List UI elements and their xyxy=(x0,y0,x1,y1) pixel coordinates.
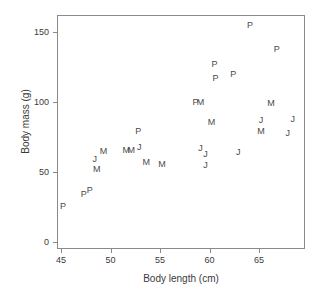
data-point-P: P xyxy=(230,70,236,79)
y-axis-tick xyxy=(53,242,57,243)
plot-area: PPPPPPPPPPMMMMMMMMMMJJJJJJJJJ xyxy=(57,15,305,249)
data-point-J: J xyxy=(203,161,208,170)
data-point-J: J xyxy=(259,116,264,125)
y-axis-tick xyxy=(53,172,57,173)
y-axis-tick-label: 100 xyxy=(34,97,49,107)
data-point-M: M xyxy=(100,147,108,156)
data-point-P: P xyxy=(212,74,218,83)
data-point-P: P xyxy=(135,127,141,136)
data-point-J: J xyxy=(236,148,241,157)
data-point-J: J xyxy=(137,142,142,151)
x-axis-tick xyxy=(61,249,62,253)
x-axis-tick-label: 65 xyxy=(254,255,264,265)
x-axis-tick xyxy=(210,249,211,253)
data-point-M: M xyxy=(158,159,166,168)
data-point-M: M xyxy=(93,165,101,174)
data-point-P: P xyxy=(211,60,217,69)
x-axis-tick-label: 60 xyxy=(204,255,214,265)
scatter-chart: PPPPPPPPPPMMMMMMMMMMJJJJJJJJJ 4550556065… xyxy=(0,0,318,301)
data-point-J: J xyxy=(92,155,97,164)
x-axis-label: Body length (cm) xyxy=(57,273,305,284)
x-axis-tick xyxy=(160,249,161,253)
y-axis-label: Body mass (g) xyxy=(20,52,31,192)
data-point-J: J xyxy=(290,114,295,123)
data-point-M: M xyxy=(257,127,265,136)
x-axis-tick-label: 55 xyxy=(155,255,165,265)
data-point-M: M xyxy=(208,117,216,126)
data-point-J: J xyxy=(285,128,290,137)
y-axis-tick-label: 150 xyxy=(34,27,49,37)
data-point-P: P xyxy=(274,44,280,53)
data-point-M: M xyxy=(142,158,150,167)
y-axis-tick xyxy=(53,102,57,103)
x-axis-tick xyxy=(111,249,112,253)
x-axis-tick xyxy=(259,249,260,253)
data-point-M: M xyxy=(267,99,275,108)
data-point-P: P xyxy=(60,201,66,210)
data-point-J: J xyxy=(203,149,208,158)
y-axis-tick-label: 0 xyxy=(44,237,49,247)
y-axis-tick xyxy=(53,32,57,33)
x-axis-tick-label: 45 xyxy=(56,255,66,265)
data-point-J: J xyxy=(198,144,203,153)
data-point-M: M xyxy=(128,145,136,154)
data-point-P: P xyxy=(87,186,93,195)
data-point-M: M xyxy=(197,98,205,107)
x-axis-tick-label: 50 xyxy=(105,255,115,265)
data-point-P: P xyxy=(247,21,253,30)
y-axis-tick-label: 50 xyxy=(39,167,49,177)
